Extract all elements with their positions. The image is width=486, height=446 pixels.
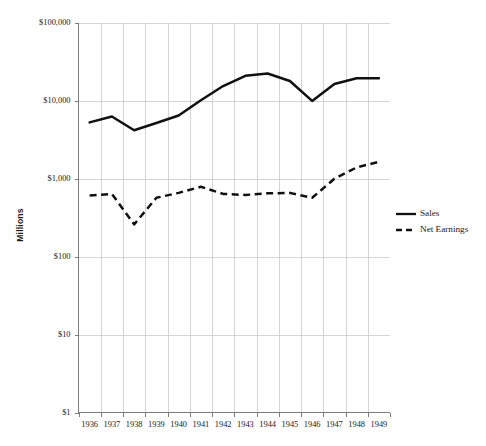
chart-legend: SalesNet Earnings: [396, 208, 469, 234]
x-tick-label: 1941: [193, 420, 210, 429]
x-tick-marks: [79, 413, 391, 417]
line-chart: $100,000$10,000$1,000$100$10$1 193619371…: [0, 0, 486, 446]
x-tick-label: 1940: [170, 420, 187, 429]
y-axis-title: Millions: [15, 208, 25, 242]
x-tick-labels: 1936193719381939194019411942194319441945…: [81, 420, 387, 429]
y-tick-label: $10: [58, 330, 71, 339]
y-tick-label: $100: [54, 252, 71, 261]
x-tick-label: 1949: [371, 420, 388, 429]
legend-label-net-earnings: Net Earnings: [420, 224, 469, 234]
x-tick-label: 1946: [304, 420, 321, 429]
y-tick-labels: $100,000$10,000$1,000$100$10$1: [39, 18, 70, 417]
x-tick-label: 1948: [348, 420, 365, 429]
y-tick-label: $10,000: [43, 96, 70, 105]
y-tick-label: $1,000: [47, 174, 70, 183]
x-tick-label: 1942: [215, 420, 232, 429]
x-tick-label: 1947: [326, 420, 343, 429]
y-tick-label: $100,000: [39, 18, 70, 27]
chart-container: $100,000$10,000$1,000$100$10$1 193619371…: [0, 0, 486, 446]
y-tick-marks: [75, 24, 79, 414]
x-tick-label: 1938: [126, 420, 143, 429]
x-tick-label: 1939: [148, 420, 165, 429]
x-tick-label: 1937: [104, 420, 121, 429]
legend-label-sales: Sales: [420, 208, 440, 218]
x-tick-label: 1945: [282, 420, 299, 429]
y-tick-label: $1: [62, 408, 70, 417]
x-tick-label: 1943: [237, 420, 254, 429]
x-tick-label: 1944: [259, 420, 277, 429]
x-tick-label: 1936: [81, 420, 98, 429]
